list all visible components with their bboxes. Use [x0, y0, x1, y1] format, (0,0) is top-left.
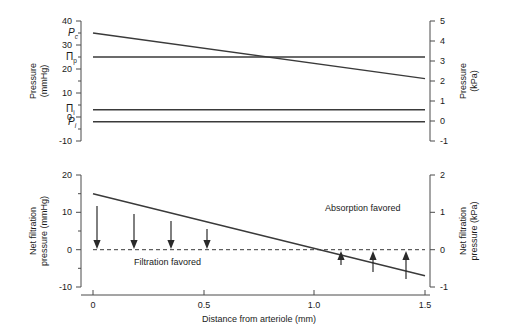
- top-right-ticklabel-4: 4: [440, 36, 445, 46]
- top-left-axis-title-line2: (mmHg): [39, 65, 49, 98]
- bottom-left-axis-title-line2: pressure (mmHg): [39, 196, 49, 266]
- arrow-down-1: [93, 206, 100, 249]
- arrow-down-2: [130, 214, 137, 249]
- arrow-up-2: [369, 251, 376, 272]
- bottom-left-ticklabel-0: 0: [67, 245, 72, 255]
- bottom-panel: 20 10 0 -10 Net filtration pressure (mmH…: [28, 170, 479, 324]
- top-right-ticklabel-0: 0: [440, 116, 445, 126]
- bottom-right-ticklabel-0: 0: [440, 245, 445, 255]
- figure-capillary-starling-forces: 40 30 20 10 0 -10 Pressure (mmHg) 5 4 3 …: [0, 0, 511, 329]
- bottom-left-axis-title-line1: Net filtration: [28, 207, 38, 255]
- bottom-x-ticklabel-1p5: 1.5: [419, 300, 432, 310]
- bottom-right-ticklabel-1: 1: [440, 207, 445, 217]
- arrow-down-4: [203, 229, 210, 249]
- top-right-ticklabel-5: 5: [440, 16, 445, 26]
- curve-pc: [93, 33, 425, 79]
- bottom-x-ticklabel-0p5: 0.5: [198, 300, 211, 310]
- top-right-axis-title-line2: (kPa): [469, 70, 479, 92]
- bottom-x-axis-title: Distance from arteriole (mm): [202, 314, 316, 324]
- curve-label-pc: Pc: [68, 27, 79, 40]
- bottom-right-ticklabel-2: 2: [440, 170, 445, 180]
- top-left-ticklabel-10: 10: [62, 88, 72, 98]
- arrow-up-1: [337, 251, 344, 265]
- top-right-ticklabel-3: 3: [440, 56, 445, 66]
- annotation-absorption-favored: Absorption favored: [325, 203, 401, 213]
- arrow-up-3: [402, 251, 409, 279]
- bottom-right-axis-title-line1: Net filtration: [458, 207, 468, 255]
- top-right-ticklabel-2: 2: [440, 76, 445, 86]
- curve-label-p-i: Pi: [68, 116, 77, 129]
- chart-svg: 40 30 20 10 0 -10 Pressure (mmHg) 5 4 3 …: [0, 0, 511, 329]
- top-left-axis-title-line1: Pressure: [28, 63, 38, 99]
- curve-label-pi-p: Πp: [66, 51, 77, 65]
- top-right-ticklabel-m1: -1: [440, 136, 448, 146]
- bottom-left-ticklabel-10: 10: [62, 207, 72, 217]
- top-right-axis-title-line1: Pressure: [458, 63, 468, 99]
- annotation-filtration-favored: Filtration favored: [134, 257, 201, 267]
- top-left-ticklabel-20: 20: [62, 64, 72, 74]
- top-left-ticklabel-40: 40: [62, 16, 72, 26]
- top-left-ticklabel-30: 30: [62, 40, 72, 50]
- top-right-ticklabel-1: 1: [440, 96, 445, 106]
- bottom-right-axis-title-line2: pressure (kPa): [469, 201, 479, 260]
- bottom-x-ticklabel-1p0: 1.0: [308, 300, 321, 310]
- bottom-left-ticklabel-m10: -10: [59, 282, 72, 292]
- bottom-right-ticklabel-m1: -1: [440, 282, 448, 292]
- curve-label-pi-i: Πi: [66, 103, 75, 116]
- bottom-x-ticklabel-0: 0: [90, 300, 95, 310]
- top-left-ticklabel-m10: -10: [59, 136, 72, 146]
- arrow-down-3: [167, 221, 174, 249]
- top-panel: 40 30 20 10 0 -10 Pressure (mmHg) 5 4 3 …: [28, 16, 479, 146]
- bottom-left-ticklabel-20: 20: [62, 170, 72, 180]
